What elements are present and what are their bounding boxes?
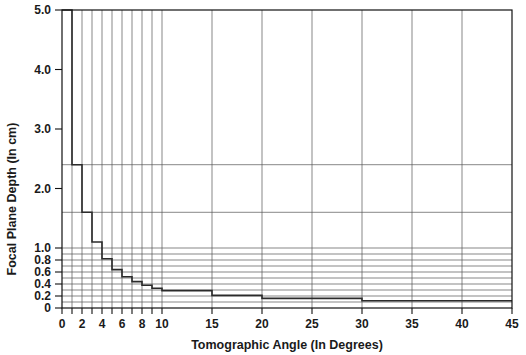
step-curve-path (62, 10, 512, 301)
x-tick-label: 10 (155, 317, 169, 331)
x-tick-label: 45 (505, 317, 519, 331)
y-tick-label: 2.0 (34, 182, 51, 196)
x-tick-label: 15 (205, 317, 219, 331)
plot-frame (62, 10, 512, 308)
x-tick-label: 25 (305, 317, 319, 331)
y-tick-label: 0.2 (34, 289, 51, 303)
x-axis-title: Tomographic Angle (In Degrees) (191, 338, 383, 352)
chart-plot-area: 024681015202530354045 00.20.40.60.81.02.… (0, 0, 526, 355)
y-tick-label: 4.0 (34, 63, 51, 77)
x-tick-label: 35 (405, 317, 419, 331)
x-tick-label: 30 (355, 317, 369, 331)
x-tick-label: 40 (455, 317, 469, 331)
axis-ticks (55, 10, 512, 314)
y-tick-label: 0.8 (34, 253, 51, 267)
x-tick-label: 2 (79, 317, 86, 331)
x-tick-label: 20 (255, 317, 269, 331)
data-series-step-curve (62, 10, 512, 301)
y-axis-title: Focal Plane Depth (In cm) (5, 123, 19, 276)
y-tick-label: 1.0 (34, 241, 51, 255)
axes-frame (62, 10, 512, 308)
x-tick-label: 0 (59, 317, 66, 331)
y-tick-label: 0 (44, 301, 51, 315)
y-tick-label: 0.4 (34, 277, 51, 291)
chart-figure: 024681015202530354045 00.20.40.60.81.02.… (0, 0, 526, 355)
x-tick-label: 6 (119, 317, 126, 331)
y-axis-tick-labels: 00.20.40.60.81.02.03.04.05.0 (34, 3, 51, 315)
y-tick-label: 3.0 (34, 122, 51, 136)
y-tick-label: 5.0 (34, 3, 51, 17)
x-axis-tick-labels: 024681015202530354045 (59, 317, 519, 331)
y-tick-label: 0.6 (34, 265, 51, 279)
x-tick-label: 8 (139, 317, 146, 331)
x-tick-label: 4 (99, 317, 106, 331)
gridlines (62, 10, 512, 308)
